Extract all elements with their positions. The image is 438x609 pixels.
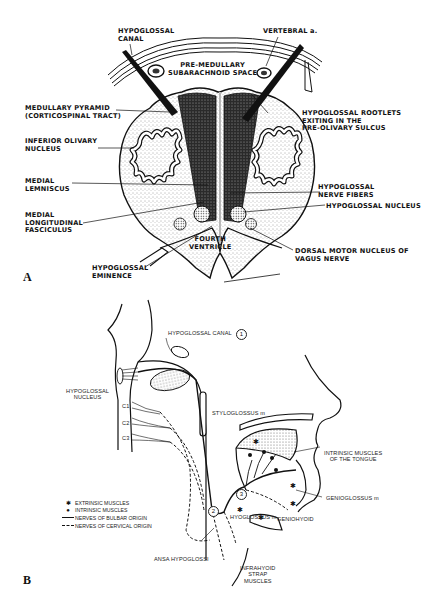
dot-icon: ●: [61, 507, 75, 513]
label-c1: C1: [122, 403, 129, 409]
label-medial-lemniscus: MEDIAL LEMNISCUS: [25, 178, 70, 193]
solid-line-icon: [61, 517, 75, 518]
left-hypoglossal-rootlet: [122, 50, 178, 116]
legend-row-extrinsic: ✱ EXTRINSIC MUSCLES: [61, 499, 152, 507]
svg-text:✱: ✱: [290, 482, 296, 490]
circled-number-3: 3: [236, 489, 247, 500]
label-hypoglossal-nucleus-a: HYPOGLOSSAL NUCLEUS: [326, 203, 421, 211]
legend-row-bulbar: NERVES OF BULBAR ORIGIN: [61, 514, 152, 522]
legend-row-intrinsic: ● INTRINSIC MUSCLES: [61, 507, 152, 515]
circled-number-1: 1: [236, 329, 247, 340]
label-hypoglossal-canal-b: HYPOGLOSSAL CANAL: [168, 330, 232, 336]
label-geniohyoid: GENIOHYOID: [277, 516, 314, 522]
label-vertebral-artery: VERTEBRAL a.: [263, 28, 317, 36]
left-hypoglossal-nucleus: [194, 206, 210, 222]
label-infrahyoid-strap-muscles: INFRAHYOID STRAP MUSCLES: [240, 565, 276, 584]
label-intrinsic-muscles-tongue: INTRINSIC MUSCLES OF THE TONGUE: [324, 450, 382, 463]
dashed-line-icon: [61, 525, 75, 526]
label-hypoglossal-eminence: HYPOGLOSSAL EMINENCE: [92, 265, 148, 280]
label-styloglossus: STYLOGLOSSUS m: [212, 410, 265, 416]
label-c3: C3: [122, 435, 129, 441]
label-pre-medullary-space: PRE-MEDULLARY SUBARACHNOID SPACE: [168, 62, 257, 77]
label-c2: C2: [122, 420, 129, 426]
label-hypoglossal-rootlets: HYPOGLOSSAL ROOTLETS EXITING IN THE PRE-…: [302, 110, 401, 133]
legend: ✱ EXTRINSIC MUSCLES ● INTRINSIC MUSCLES …: [61, 499, 152, 529]
right-hypoglossal-nucleus: [230, 206, 246, 222]
circled-number-2: 2: [208, 506, 219, 517]
label-ansa-hypoglossi: ANSA HYPOGLOSSI: [154, 556, 209, 562]
panel-letter-b: B: [23, 573, 31, 588]
legend-row-cervical: NERVES OF CERVICAL ORIGIN: [61, 522, 152, 530]
label-dorsal-motor-nucleus: DORSAL MOTOR NUCLEUS OF VAGUS NERVE: [295, 248, 409, 263]
label-medullary-pyramid: MEDULLARY PYRAMID (CORTICOSPINAL TRACT): [25, 105, 121, 120]
panel-letter-a: A: [23, 270, 32, 285]
label-medial-longitudinal-fasciculus: MEDIAL LONGITUDINAL FASCICULUS: [25, 212, 83, 235]
hypoglossal-nerve-path: [138, 368, 296, 513]
left-dorsal-motor-nucleus: [174, 218, 186, 230]
svg-text:✱: ✱: [237, 506, 243, 514]
star-icon: ✱: [61, 499, 75, 506]
label-hypoglossal-nerve-fibers: HYPOGLOSSAL NERVE FIBERS: [318, 184, 374, 199]
svg-text:✱: ✱: [253, 438, 259, 446]
label-hyoglossus: HYOGLOSSUS m: [230, 514, 277, 520]
label-inferior-olivary-nucleus: INFERIOR OLIVARY NUCLEUS: [25, 138, 97, 153]
label-genioglossus: GENIOGLOSSUS m: [326, 495, 379, 501]
right-dorsal-motor-nucleus: [246, 219, 257, 230]
svg-text:✱: ✱: [290, 500, 296, 508]
label-fourth-ventricle: FOURTH VENTRICLE: [189, 236, 232, 251]
label-hypoglossal-canal-a: HYPOGLOSSAL CANAL: [118, 28, 174, 43]
label-hypoglossal-nucleus-b: HYPOGLOSSAL NUCLEUS: [66, 388, 109, 401]
